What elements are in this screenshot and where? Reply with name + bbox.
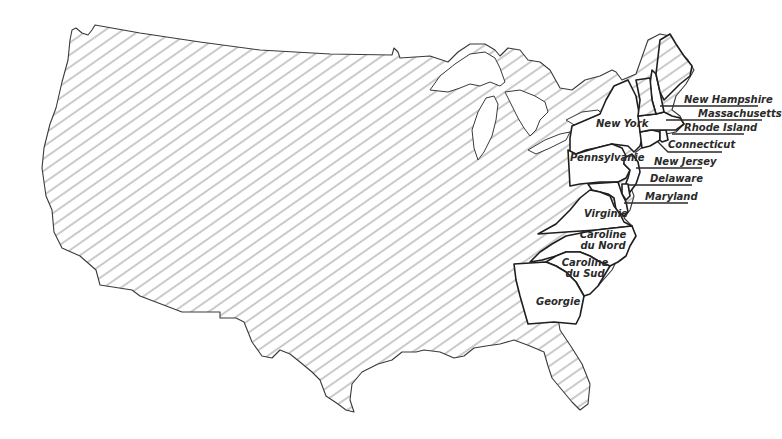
label-connecticut: Connecticut bbox=[668, 139, 735, 152]
label-virginia: Virginie bbox=[584, 208, 628, 219]
label-new-hampshire: New Hampshire bbox=[684, 94, 773, 107]
label-rhode-island: Rhode Island bbox=[684, 122, 757, 135]
colony-shape-connecticut bbox=[640, 130, 660, 148]
label-massachusetts: Massachusetts bbox=[698, 108, 782, 121]
label-south-carolina: Caroline du Sud bbox=[560, 257, 610, 279]
label-maryland: Maryland bbox=[645, 191, 698, 204]
label-north-carolina-line2: du Nord bbox=[578, 240, 628, 251]
colony-shape-rhode-island bbox=[660, 130, 668, 142]
maine-region bbox=[656, 34, 692, 100]
label-new-jersey: New Jersey bbox=[654, 156, 717, 169]
label-delaware: Delaware bbox=[650, 173, 703, 186]
label-georgia: Georgie bbox=[536, 296, 580, 307]
label-north-carolina: Caroline du Nord bbox=[578, 229, 628, 251]
label-new-york: New York bbox=[596, 118, 648, 129]
label-north-carolina-line1: Caroline bbox=[578, 229, 628, 240]
label-south-carolina-line2: du Sud bbox=[560, 268, 610, 279]
us-colonies-map bbox=[0, 0, 782, 439]
label-south-carolina-line1: Caroline bbox=[560, 257, 610, 268]
label-pennsylvania: Pennsylvanie bbox=[570, 152, 645, 163]
